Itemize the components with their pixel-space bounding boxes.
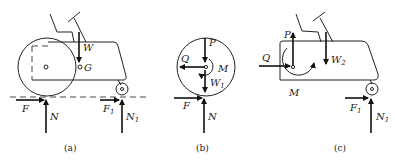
caster-hub	[121, 88, 124, 91]
frame-body	[280, 41, 378, 80]
cog-label: G	[84, 62, 92, 73]
caption-b: (b)	[196, 143, 209, 153]
hidden-frame-outline	[32, 46, 48, 80]
moment-label: M	[217, 63, 229, 74]
weight-wheel-label: W1	[210, 77, 225, 90]
caption-a: (a)	[64, 143, 76, 153]
normal-label-rear: N	[49, 111, 60, 122]
normal-label-front: N1	[125, 111, 139, 124]
front-caster	[366, 83, 378, 95]
wheelchair-push-handle	[68, 12, 86, 42]
frame-push-handle	[313, 12, 333, 42]
center-of-gravity-point	[78, 65, 82, 69]
panel-b: P Q M W1 F N (b)	[174, 37, 235, 153]
wheel-hub	[44, 65, 48, 69]
normal-label: N	[207, 111, 218, 122]
friction-label-front: F1	[102, 103, 114, 116]
weight-frame-label: W2	[331, 54, 346, 67]
attachment-point	[291, 65, 294, 68]
force-q-label: Q	[262, 52, 270, 63]
friction-label-front: F1	[349, 102, 361, 115]
panel-c: P Q M W2 F1 N1 (c)	[259, 12, 389, 153]
force-q-label: Q	[181, 53, 189, 64]
panel-a: W G F N F1 N1 (a)	[10, 12, 148, 153]
force-p-label: P	[208, 37, 216, 48]
moment-arc	[282, 48, 314, 75]
front-caster	[116, 83, 128, 95]
caption-c: (c)	[334, 143, 346, 153]
weight-label: W	[83, 42, 94, 53]
caster-hub	[371, 88, 374, 91]
force-p-label: P	[283, 29, 291, 40]
rear-wheel	[18, 38, 76, 96]
moment-label: M	[288, 87, 300, 98]
normal-label-front: N1	[375, 111, 389, 124]
wheelchair-free-body-diagram: W G F N F1 N1 (a) P Q M W1 F N (b)	[0, 0, 395, 164]
friction-label-rear: F	[21, 103, 30, 114]
wheelchair-backrest	[50, 14, 74, 42]
friction-label: F	[182, 100, 191, 111]
